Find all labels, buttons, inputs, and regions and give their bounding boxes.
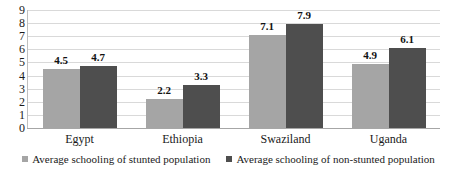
bar-group: 4.54.7 <box>28 10 131 128</box>
bar[interactable]: 4.9 <box>352 64 389 128</box>
bar-value-label: 7.1 <box>260 20 274 32</box>
bar[interactable]: 7.1 <box>249 35 286 128</box>
y-axis-tick-label: 7 <box>3 31 25 41</box>
bar[interactable]: 3.3 <box>183 85 220 128</box>
bar-group: 4.96.1 <box>337 10 440 128</box>
x-axis-tick-label: Ethiopia <box>131 131 234 149</box>
x-axis-tick-label: Uganda <box>337 131 440 149</box>
x-axis-tick-label: Swaziland <box>234 131 337 149</box>
y-axis-tick-label: 4 <box>3 71 25 81</box>
bar[interactable]: 6.1 <box>389 48 426 128</box>
bar[interactable]: 7.9 <box>286 24 323 128</box>
bar-group: 7.17.9 <box>234 10 337 128</box>
x-axis-line <box>27 128 440 129</box>
y-axis-tick-label: 6 <box>3 44 25 54</box>
bar-value-label: 2.2 <box>157 84 171 96</box>
bar-value-label: 6.1 <box>400 33 414 45</box>
legend-swatch-icon <box>22 156 28 162</box>
bar-group: 2.23.3 <box>131 10 234 128</box>
y-axis-tick-label: 3 <box>3 84 25 94</box>
y-axis-tick-label: 2 <box>3 97 25 107</box>
bar-chart: 9876543210 4.54.72.23.37.17.94.96.1 Egyp… <box>0 0 457 169</box>
legend-item[interactable]: Average schooling of non-stunted populat… <box>226 152 434 166</box>
legend-item[interactable]: Average schooling of stunted population <box>22 152 210 166</box>
bar-value-label: 3.3 <box>194 70 208 82</box>
y-axis-tick-label: 0 <box>3 123 25 133</box>
legend-item-label: Average schooling of stunted population <box>32 152 210 166</box>
y-axis-tick-label: 5 <box>3 57 25 67</box>
y-axis: 9876543210 <box>0 0 25 132</box>
bar-value-label: 7.9 <box>297 9 311 21</box>
legend-swatch-icon <box>226 156 232 162</box>
x-axis-tick-label: Egypt <box>28 131 131 149</box>
plot-area: 9876543210 4.54.72.23.37.17.94.96.1 <box>0 0 457 132</box>
legend-item-label: Average schooling of non-stunted populat… <box>236 152 434 166</box>
bar[interactable]: 4.7 <box>80 66 117 128</box>
bar[interactable]: 4.5 <box>43 69 80 128</box>
bar-value-label: 4.9 <box>363 49 377 61</box>
x-axis-category-labels: EgyptEthiopiaSwazilandUganda <box>28 131 440 149</box>
y-axis-tick-label: 1 <box>3 110 25 120</box>
bar-value-label: 4.5 <box>54 54 68 66</box>
bar-groups: 4.54.72.23.37.17.94.96.1 <box>28 10 440 128</box>
bar[interactable]: 2.2 <box>146 99 183 128</box>
bar-value-label: 4.7 <box>91 51 105 63</box>
y-axis-tick-label: 8 <box>3 18 25 28</box>
y-axis-tick-label: 9 <box>3 5 25 15</box>
chart-legend: Average schooling of stunted populationA… <box>0 150 457 168</box>
